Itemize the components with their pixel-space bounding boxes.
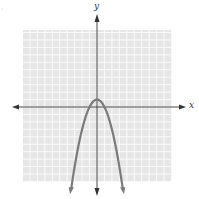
y-axis-down-arrow-icon (95, 188, 100, 196)
x-axis-left-arrow-icon (12, 105, 19, 110)
curve-left-arrow-icon (69, 187, 74, 194)
x-axis-label: x (189, 100, 194, 110)
corner-mark: · (1, 5, 3, 12)
y-axis-label: y (94, 1, 99, 11)
curve-right-arrow-icon (120, 187, 125, 194)
parabola-graph (0, 0, 199, 199)
y-axis-up-arrow-icon (95, 14, 100, 22)
x-axis-right-arrow-icon (179, 105, 186, 110)
